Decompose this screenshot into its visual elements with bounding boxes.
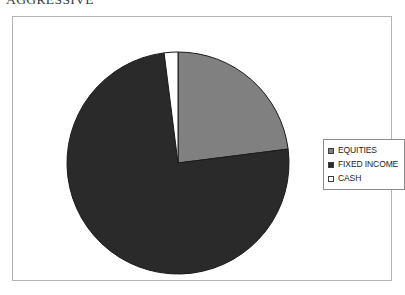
pie-chart: [66, 51, 290, 275]
legend-item-cash[interactable]: CASH: [328, 172, 401, 185]
legend-label-equities: EQUITIES: [338, 146, 377, 155]
legend-item-equities[interactable]: EQUITIES: [328, 144, 401, 157]
legend-swatch-equities-icon: [328, 148, 334, 154]
pie-slice[interactable]: [178, 52, 288, 163]
legend-swatch-fixed-income-icon: [328, 162, 334, 168]
pie-chart-svg: [66, 51, 290, 275]
legend-label-cash: CASH: [338, 174, 361, 183]
legend-swatch-cash-icon: [328, 176, 334, 182]
legend-label-fixed-income: FIXED INCOME: [338, 160, 398, 169]
legend-item-fixed-income[interactable]: FIXED INCOME: [328, 158, 401, 171]
plot-frame: EQUITIES FIXED INCOME CASH: [12, 16, 392, 281]
chart-legend: EQUITIES FIXED INCOME CASH: [323, 139, 405, 190]
page-title: AGGRESSIVE: [6, 0, 94, 7]
